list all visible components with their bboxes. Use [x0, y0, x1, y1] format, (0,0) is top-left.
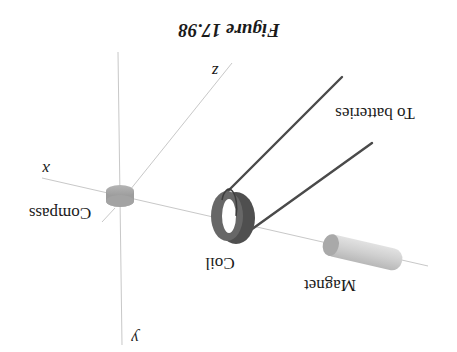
wire-lower [248, 143, 372, 232]
x-axis-label: x [42, 160, 51, 179]
figure: Figure 17.98 x z y Compass To batteries … [0, 0, 457, 352]
z-axis-line-lower [102, 208, 115, 222]
figure-caption: Figure 17.98 [178, 20, 281, 41]
diagram-canvas: Figure 17.98 x z y Compass To batteries … [0, 0, 457, 352]
coil-label: Coil [205, 254, 235, 273]
compass-label: Compass [29, 204, 91, 223]
magnet-label: Magnet [304, 276, 356, 295]
magnet [321, 233, 405, 273]
wires-label: To batteries [335, 104, 415, 123]
z-axis-label: z [211, 62, 219, 81]
coil [211, 189, 255, 244]
compass [106, 185, 134, 207]
y-axis-label: y [131, 329, 141, 348]
